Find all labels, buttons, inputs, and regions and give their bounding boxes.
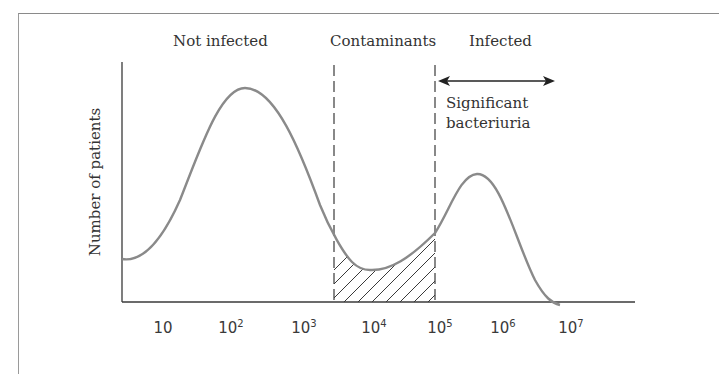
x-tick-10-5: 105 <box>427 318 452 337</box>
x-tick-10-1: 10 <box>153 318 172 337</box>
label-infected: Infected <box>469 34 532 49</box>
tick-base: 10 <box>153 319 172 337</box>
tick-base: 10 <box>218 319 237 337</box>
significant-bacteriuria-arrow <box>438 76 555 86</box>
tick-base: 10 <box>558 319 577 337</box>
tick-exponent: 2 <box>237 318 243 329</box>
contaminants-hatch <box>272 232 526 332</box>
label-contaminants: Contaminants <box>330 34 436 49</box>
tick-exponent: 7 <box>577 318 583 329</box>
tick-exponent: 6 <box>509 318 515 329</box>
tick-base: 10 <box>291 319 310 337</box>
tick-base: 10 <box>361 319 380 337</box>
tick-exponent: 5 <box>446 318 452 329</box>
y-axis-label: Number of patients <box>86 108 104 256</box>
x-tick-10-4: 104 <box>361 318 386 337</box>
x-tick-10-3: 103 <box>291 318 316 337</box>
tick-exponent: 4 <box>380 318 386 329</box>
tick-exponent: 3 <box>310 318 316 329</box>
tick-base: 10 <box>427 319 446 337</box>
annotation-line-1: Significant <box>446 93 530 113</box>
x-tick-10-6: 106 <box>490 318 515 337</box>
x-tick-10-2: 102 <box>218 318 243 337</box>
tick-base: 10 <box>490 319 509 337</box>
x-tick-10-7: 107 <box>558 318 583 337</box>
label-not-infected: Not infected <box>173 34 268 49</box>
significant-bacteriuria-label: Significant bacteriuria <box>446 93 530 133</box>
annotation-line-2: bacteriuria <box>446 113 530 133</box>
